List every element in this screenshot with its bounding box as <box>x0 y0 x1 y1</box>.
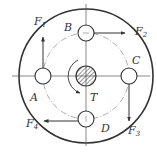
bolt-c <box>121 68 137 84</box>
force-f4-label: F4 <box>25 117 38 131</box>
force-f2-label: F2 <box>134 25 148 39</box>
torque-label: T <box>90 91 99 104</box>
bolt-c-label: C <box>132 54 141 67</box>
force-f3-label: F3 <box>127 124 141 138</box>
shaft-section <box>76 66 96 86</box>
force-f1-label: F1 <box>33 15 46 29</box>
bolt-a <box>35 68 51 84</box>
bolt-b-label: B <box>63 21 72 34</box>
bolt-a-label: A <box>29 91 38 104</box>
flange-diagram: F1 B F2 C A T F4 D F3 <box>0 0 157 155</box>
bolt-d-label: D <box>100 122 110 135</box>
